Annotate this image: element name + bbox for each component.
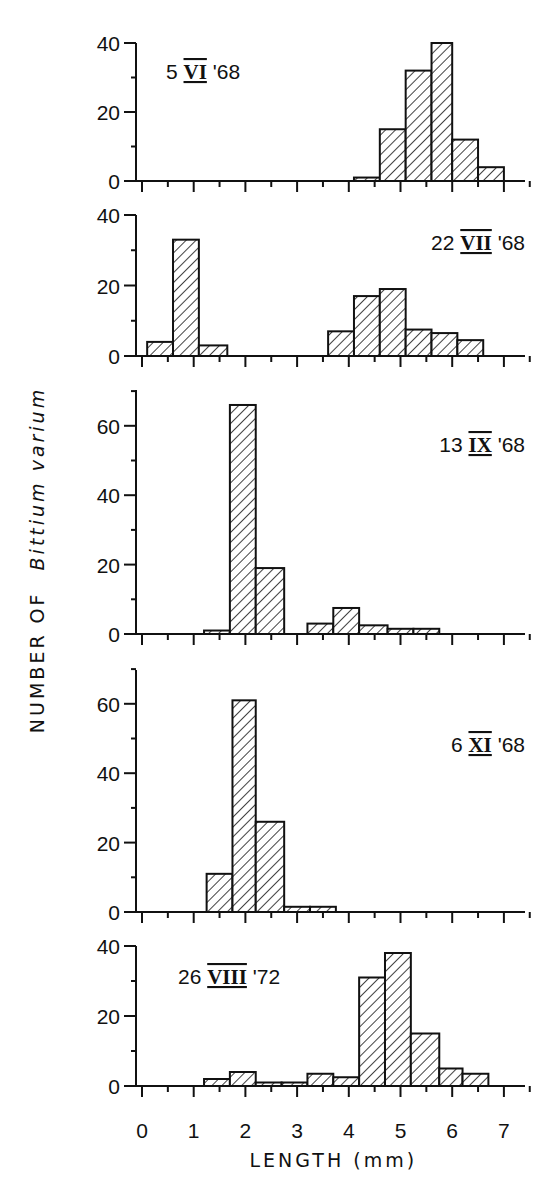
panels-group: 020405 VI '680204022 VII '68020406013 IX…	[97, 32, 530, 1098]
histogram-bar	[307, 1074, 333, 1086]
y-tick-label: 40	[97, 935, 120, 958]
y-axis-title-species: Bittium varium	[26, 387, 48, 571]
x-tick-label: 0	[136, 1119, 148, 1142]
panel-date-label: 26 VIII '72	[178, 965, 280, 989]
histogram-bar	[232, 700, 255, 912]
date-year: '72	[247, 965, 280, 988]
histogram-bar	[457, 340, 483, 356]
histogram-bar	[411, 1034, 439, 1087]
x-tick-label: 1	[188, 1119, 200, 1142]
y-tick-label: 0	[108, 170, 120, 193]
panel-date-label: 13 IX '68	[439, 433, 525, 457]
histogram-panel: 020405 VI '68	[97, 32, 530, 193]
histogram-bar	[452, 140, 478, 181]
histogram-bar	[380, 129, 406, 181]
y-tick-label: 20	[97, 554, 120, 577]
date-month-roman: VII	[460, 231, 492, 255]
date-day: 5	[166, 60, 184, 83]
x-axis-tick-labels: 01234567	[136, 1119, 510, 1142]
y-tick-label: 20	[97, 832, 120, 855]
histogram-bar	[385, 953, 411, 1086]
date-day: 22	[431, 231, 460, 254]
histogram-bar	[256, 568, 284, 634]
histogram-bar	[328, 331, 354, 356]
panel-date-label: 22 VII '68	[431, 231, 525, 255]
histogram-bar	[406, 330, 432, 356]
y-tick-label: 40	[97, 484, 120, 507]
histogram-bar	[354, 296, 380, 356]
histogram-bar	[478, 167, 504, 181]
histogram-bar	[230, 1072, 256, 1086]
histogram-bar	[147, 342, 173, 356]
y-tick-label: 20	[97, 1005, 120, 1028]
histogram-bar	[204, 1079, 230, 1086]
histogram-bar	[173, 240, 199, 356]
y-tick-label: 0	[108, 623, 120, 646]
date-month-roman: VIII	[207, 965, 247, 989]
date-day: 6	[451, 733, 469, 756]
histogram-bar	[207, 874, 233, 912]
date-year: '68	[207, 60, 240, 83]
histogram-bar	[359, 625, 387, 634]
x-axis-title: LENGTH (mm)	[249, 1149, 417, 1171]
histogram-bar	[439, 1069, 462, 1087]
histogram-bar	[432, 333, 458, 356]
y-axis-title-plain: NUMBER OF	[26, 591, 48, 733]
histogram-bar	[432, 43, 453, 181]
histogram-bar	[307, 624, 333, 634]
y-axis-title: NUMBER OF Bittium varium	[26, 387, 48, 733]
x-tick-label: 3	[291, 1119, 303, 1142]
y-tick-label: 20	[97, 101, 120, 124]
y-tick-label: 0	[108, 1075, 120, 1098]
histogram-bar	[406, 71, 432, 181]
y-tick-label: 0	[108, 345, 120, 368]
panel-date-label: 5 VI '68	[166, 60, 240, 84]
y-tick-label: 60	[97, 693, 120, 716]
y-tick-label: 40	[97, 32, 120, 55]
date-year: '68	[492, 231, 525, 254]
histogram-panel: 020406013 IX '68	[97, 390, 530, 646]
x-tick-label: 7	[498, 1119, 510, 1142]
date-day: 13	[439, 433, 468, 456]
histogram-bar	[199, 345, 227, 356]
histogram-bar	[333, 1077, 359, 1086]
x-tick-label: 5	[395, 1119, 407, 1142]
y-tick-label: 40	[97, 204, 120, 227]
y-tick-label: 60	[97, 415, 120, 438]
y-tick-label: 40	[97, 762, 120, 785]
panel-date-label: 6 XI '68	[451, 733, 525, 757]
date-month-roman: VI	[184, 60, 207, 84]
histogram-bar	[380, 289, 406, 356]
histogram-panel: 0204022 VII '68	[97, 204, 530, 368]
histogram-bar	[230, 405, 256, 634]
date-month-roman: XI	[468, 733, 491, 757]
x-tick-label: 2	[240, 1119, 252, 1142]
histogram-bar	[359, 978, 385, 1087]
histogram-bar	[256, 822, 284, 912]
histogram-bar	[463, 1074, 489, 1086]
date-year: '68	[492, 433, 525, 456]
x-tick-label: 4	[343, 1119, 355, 1142]
x-tick-label: 6	[446, 1119, 458, 1142]
histogram-bar	[333, 608, 359, 634]
histogram-panel: 02040606 XI '68	[97, 669, 530, 924]
date-day: 26	[178, 965, 207, 988]
y-tick-label: 20	[97, 275, 120, 298]
date-month-roman: IX	[468, 433, 491, 457]
y-tick-label: 0	[108, 901, 120, 924]
date-year: '68	[492, 733, 525, 756]
histogram-figure: 020405 VI '680204022 VII '68020406013 IX…	[0, 0, 557, 1188]
histogram-panel: 0204026 VIII '72	[97, 935, 530, 1098]
